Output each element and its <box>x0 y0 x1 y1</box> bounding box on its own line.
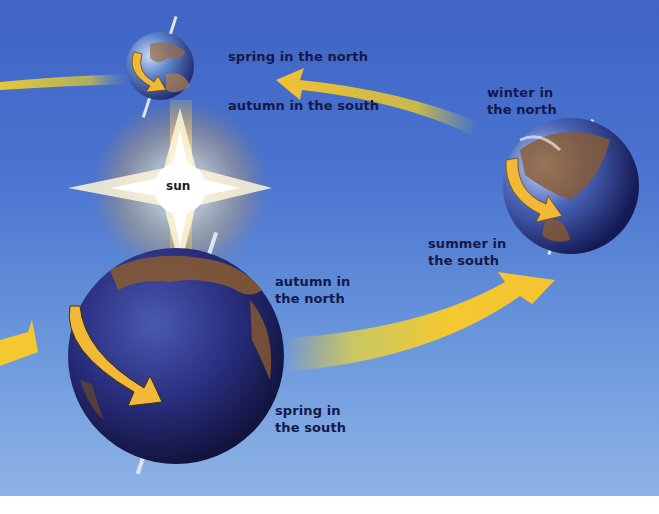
orbit-arrow-top-left <box>0 74 130 90</box>
label-top-north: spring in the north <box>228 48 368 65</box>
sun-label: sun <box>166 179 190 193</box>
label-top-south: autumn in the south <box>228 97 379 114</box>
label-right-south: summer in the south <box>428 235 506 269</box>
label-front-south: spring in the south <box>275 402 346 436</box>
bottom-margin <box>0 496 659 514</box>
seasons-diagram: spring in the north autumn in the south … <box>0 0 659 496</box>
label-front-north: autumn in the north <box>275 273 350 307</box>
label-right-north: winter in the north <box>487 84 557 118</box>
orbit-arrow-left <box>0 320 38 366</box>
